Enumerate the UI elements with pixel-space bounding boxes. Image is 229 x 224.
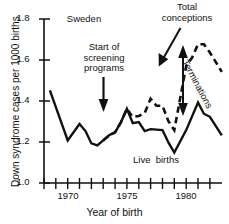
- annotation-screening-programs: Start of screening programs: [73, 42, 135, 74]
- annotation-total-conceptions: Total conceptions: [148, 2, 226, 23]
- x-tick-label-1980: 1980: [171, 191, 201, 202]
- x-tick-label-1975: 1975: [112, 191, 142, 202]
- x-axis-title: Year of birth: [0, 207, 229, 219]
- y-axis-title: Down syndrome cases per 1000 births: [10, 16, 21, 187]
- total-conceptions-arrow-icon: [159, 28, 181, 67]
- region-label: Sweden: [54, 14, 114, 25]
- terminations-arrow-icon: [178, 45, 188, 116]
- annotation-live-births: Live births: [133, 155, 179, 166]
- screening-arrow-icon: [99, 77, 109, 112]
- x-tick-label-1970: 1970: [53, 191, 83, 202]
- series-live-births: [50, 90, 222, 152]
- chart-figure: 1.8 1.6 1.4 1.2 1.0 1970 1975 1980 Year …: [0, 0, 229, 224]
